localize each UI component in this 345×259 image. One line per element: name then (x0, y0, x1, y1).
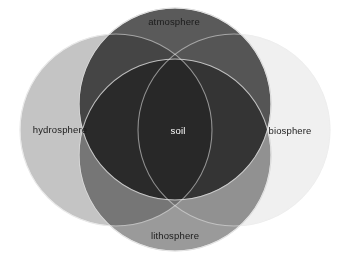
venn-diagram: atmosphere hydrosphere biosphere lithosp… (0, 0, 345, 259)
venn-circle-lithosphere[interactable] (79, 59, 271, 251)
venn-circle-group (20, 8, 330, 251)
venn-diagram-canvas (0, 0, 345, 259)
